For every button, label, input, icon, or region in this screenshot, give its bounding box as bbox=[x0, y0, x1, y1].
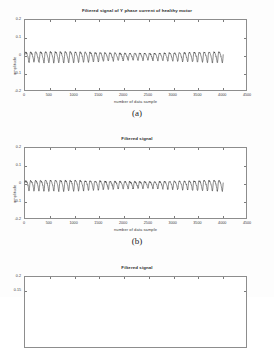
panel-b-axes bbox=[24, 147, 247, 219]
panel-b-ytick-4: -0.2 bbox=[6, 217, 21, 221]
panel-a-xlabel: number of data sample bbox=[24, 99, 247, 104]
panel-a-xtick-9: 4500 bbox=[243, 93, 251, 97]
panel-a-xtick-6: 3000 bbox=[169, 93, 177, 97]
panel-b-xtick-9: 4500 bbox=[243, 221, 251, 225]
tick bbox=[223, 277, 224, 279]
tick bbox=[50, 277, 51, 279]
panel-b-ytick-0: 0.2 bbox=[6, 145, 21, 149]
panel-a-xtick-8: 4000 bbox=[218, 93, 226, 97]
panel-b-caption: (b) bbox=[0, 236, 274, 246]
panel-b-xtick-0: 0 bbox=[23, 221, 25, 225]
panel-b-trace bbox=[25, 148, 248, 220]
panel-c-axes bbox=[24, 276, 247, 348]
panel-a-xtick-5: 2500 bbox=[144, 93, 152, 97]
tick bbox=[198, 277, 199, 279]
panel-b-xtick-4: 2000 bbox=[119, 221, 127, 225]
panel-a-ytick-1: 0.1 bbox=[6, 35, 21, 39]
tick bbox=[75, 277, 76, 279]
tick bbox=[25, 291, 27, 292]
panel-a-xtick-2: 1000 bbox=[69, 93, 77, 97]
panel-a-xtick-1: 500 bbox=[46, 93, 52, 97]
panel-a-xtick-0: 0 bbox=[23, 93, 25, 97]
panel-a-xtick-7: 3500 bbox=[193, 93, 201, 97]
panel-b-xlabel: number of data sample bbox=[24, 227, 247, 232]
panel-b-xtick-1: 500 bbox=[46, 221, 52, 225]
tick bbox=[244, 291, 246, 292]
panel-a-ytick-2: 0 bbox=[6, 53, 21, 57]
panel-a-xtick-4: 2000 bbox=[119, 93, 127, 97]
panel-a-title: Filtered signal of Y phase current of he… bbox=[0, 8, 274, 13]
panel-b-ytick-2: 0 bbox=[6, 181, 21, 185]
panel-b-xtick-8: 4000 bbox=[218, 221, 226, 225]
panel-a-ytick-0: 0.2 bbox=[6, 17, 21, 21]
panel-c-ytick-0: 0.2 bbox=[6, 274, 21, 278]
panel-a: Filtered signal of Y phase current of he… bbox=[0, 0, 274, 126]
panel-b-xtick-2: 1000 bbox=[69, 221, 77, 225]
panel-c: Filtered signal 0.2 0.15 bbox=[0, 262, 274, 297]
tick bbox=[149, 277, 150, 279]
panel-a-xtick-3: 1500 bbox=[94, 93, 102, 97]
tick bbox=[174, 277, 175, 279]
panel-b-xtick-3: 1500 bbox=[94, 221, 102, 225]
panel-a-trace bbox=[25, 20, 248, 92]
panel-b-xtick-6: 3000 bbox=[169, 221, 177, 225]
panel-b: Filtered signal amplitude 0.2 0.1 0 -0.1… bbox=[0, 131, 274, 257]
panel-a-ytick-3: -0.1 bbox=[6, 71, 21, 75]
tick bbox=[124, 277, 125, 279]
panel-b-xtick-5: 2500 bbox=[144, 221, 152, 225]
panel-a-ytick-4: -0.2 bbox=[6, 89, 21, 93]
panel-b-ytick-3: -0.1 bbox=[6, 199, 21, 203]
tick bbox=[99, 277, 100, 279]
panel-a-axes bbox=[24, 19, 247, 91]
panel-c-title: Filtered signal bbox=[0, 265, 274, 270]
panel-b-ytick-1: 0.1 bbox=[6, 163, 21, 167]
panel-b-xtick-7: 3500 bbox=[193, 221, 201, 225]
panel-c-ytick-1: 0.15 bbox=[6, 288, 21, 292]
panel-a-caption: (a) bbox=[0, 108, 274, 118]
panel-b-title: Filtered signal bbox=[0, 136, 274, 141]
